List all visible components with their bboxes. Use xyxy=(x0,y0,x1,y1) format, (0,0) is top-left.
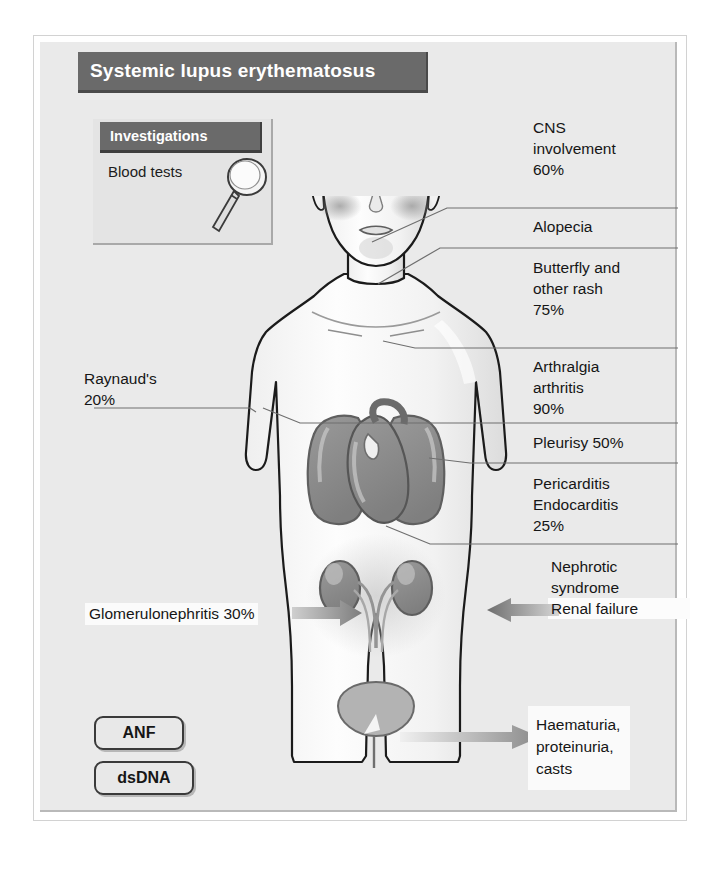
label-nephrotic-syndrome: Nephrotic syndrome Renal failure xyxy=(551,556,638,619)
label-cns-involvement: CNS involvement 60% xyxy=(533,117,616,180)
test-pill-anf-label: ANF xyxy=(123,724,156,742)
label-pericarditis-endocarditis: Pericarditis Endocarditis 25% xyxy=(533,473,618,536)
investigations-heading-text: Investigations xyxy=(100,128,208,144)
label-arthralgia-arthritis: Arthralgia arthritis 90% xyxy=(533,356,599,419)
test-pill-dsdna-label: dsDNA xyxy=(117,769,170,787)
investigations-heading: Investigations xyxy=(100,122,262,153)
page-title-text: Systemic lupus erythematosus xyxy=(78,60,375,82)
label-alopecia: Alopecia xyxy=(533,216,592,237)
head xyxy=(312,196,439,266)
arrow-renal-failure xyxy=(487,598,559,622)
page-title: Systemic lupus erythematosus xyxy=(78,52,428,93)
label-butterfly-rash: Butterfly and other rash 75% xyxy=(533,257,620,320)
label-raynauds: Raynaud's 20% xyxy=(84,368,157,410)
human-body-figure xyxy=(236,196,516,792)
label-pleurisy: Pleurisy 50% xyxy=(533,432,623,453)
arrow-haematuria xyxy=(400,724,540,750)
label-glomerulonephritis: Glomerulonephritis 30% xyxy=(85,603,258,625)
test-pill-dsdna[interactable]: dsDNA xyxy=(94,761,194,795)
label-haematuria-proteinuria-casts: Haematuria, proteinuria, casts xyxy=(528,706,630,790)
arrow-glomerulonephritis xyxy=(292,600,362,626)
test-pill-anf[interactable]: ANF xyxy=(94,716,184,750)
investigations-item-blood-tests: Blood tests xyxy=(108,163,182,180)
diagram-root: Systemic lupus erythematosus Investigati… xyxy=(0,0,719,874)
